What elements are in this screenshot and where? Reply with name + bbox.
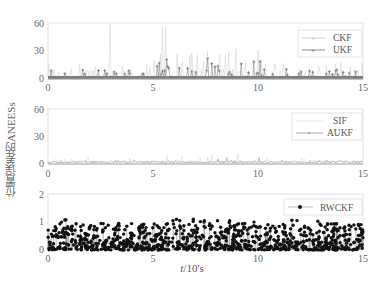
ytick: 2 xyxy=(39,189,44,200)
svg-text:+: + xyxy=(311,47,315,55)
ytick: 0 xyxy=(39,244,44,255)
panel-2: 60 30 0 0 5 10 15 SIF AUKF xyxy=(34,104,368,179)
svg-text:+: + xyxy=(311,35,315,43)
ytick: 30 xyxy=(34,131,44,142)
ytick: 1 xyxy=(39,216,44,227)
panel-3: 2 1 0 0 5 10 15 RWCKF xyxy=(39,189,368,264)
ytick: 0 xyxy=(39,73,44,84)
xtick: 5 xyxy=(151,82,156,93)
xtick: 0 xyxy=(46,82,51,93)
xtick: 0 xyxy=(46,168,51,179)
legend-aukf: AUKF xyxy=(327,128,353,138)
legend-ckf: CKF xyxy=(333,33,351,43)
figure: 60 30 0 0 5 10 15 + CKF + UKF 60 30 0 0 … xyxy=(0,0,384,293)
legend-rwckf: RWCKF xyxy=(320,203,353,213)
y-axis-label: 位置误差的ANEESs xyxy=(3,90,17,210)
legend-sif: SIF xyxy=(333,116,347,126)
panel-1: 60 30 0 0 5 10 15 + CKF + UKF xyxy=(34,18,368,93)
x-axis-unit: /10's xyxy=(183,262,203,274)
legend-ukf: UKF xyxy=(333,45,352,55)
xtick: 10 xyxy=(253,168,263,179)
series-rwckf xyxy=(47,218,365,252)
legend: SIF AUKF xyxy=(292,113,362,140)
ytick: 30 xyxy=(34,45,44,56)
ytick: 60 xyxy=(34,18,44,29)
series-sif-aukf xyxy=(48,154,363,163)
xtick: 10 xyxy=(253,82,263,93)
legend: RWCKF xyxy=(284,199,362,215)
ytick: 0 xyxy=(39,158,44,169)
xtick: 15 xyxy=(358,82,368,93)
xtick: 5 xyxy=(151,168,156,179)
xtick: 15 xyxy=(358,168,368,179)
legend: + CKF + UKF xyxy=(298,30,362,57)
ytick: 60 xyxy=(34,104,44,115)
x-axis-label: t/10's xyxy=(0,262,384,274)
